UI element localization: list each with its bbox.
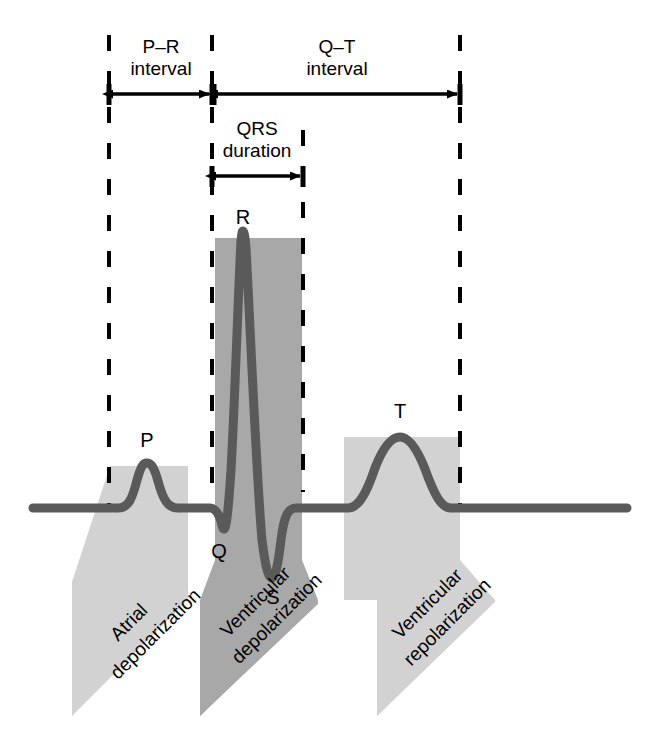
p-wave-label: P	[140, 429, 153, 451]
qrs-duration-label-line1: QRS	[236, 118, 277, 139]
t-wave-label: T	[394, 400, 406, 422]
qt-interval-label-line1: Q–T	[319, 36, 356, 57]
qrs-duration-label-line2: duration	[223, 140, 292, 161]
pr-interval-label-line2: interval	[130, 58, 191, 79]
r-wave-label: R	[236, 206, 250, 228]
ecg-figure-canvas: P–R interval Q–T interval QRS duration P…	[0, 0, 661, 750]
pr-interval-label-line1: P–R	[143, 36, 180, 57]
ecg-diagram: P–R interval Q–T interval QRS duration P…	[0, 0, 661, 750]
interval-arrows	[109, 84, 460, 187]
interval-labels: P–R interval Q–T interval QRS duration	[130, 36, 367, 161]
q-wave-label: Q	[211, 540, 227, 562]
qt-interval-label-line2: interval	[306, 58, 367, 79]
